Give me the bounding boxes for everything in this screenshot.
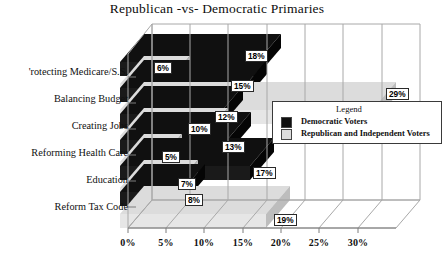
left-wall (128, 24, 152, 228)
category-label-5: Reform Tax Code (0, 201, 128, 212)
legend-swatch-democratic (281, 117, 292, 128)
value-label-democratic-3: 13% (222, 141, 245, 153)
legend-title: Legend (273, 104, 425, 114)
category-label-4: Education (0, 174, 128, 185)
legend-label-democratic: Democratic Voters (301, 117, 367, 127)
legend-label-republican: Republican and Independent Voters (301, 129, 430, 139)
value-label-republican-4: 7% (178, 178, 196, 190)
value-label-republican-5: 19% (274, 214, 297, 226)
legend-swatch-republican (281, 129, 292, 140)
value-label-democratic-0: 18% (245, 50, 268, 62)
category-label-3: Reforming Health Care (0, 147, 128, 158)
x-axis (128, 228, 396, 233)
category-label-2: Creating Jobs (0, 120, 128, 131)
legend: Legend Democratic Voters Republican and … (272, 101, 442, 144)
x-tick-label-4: 20% (264, 237, 298, 248)
category-label-0: 'rotecting Medicare/S.S. (0, 66, 128, 77)
y-axis-ticks (128, 77, 136, 207)
value-label-republican-2: 10% (188, 123, 211, 135)
value-label-democratic-4: 17% (253, 167, 276, 179)
value-label-democratic-1: 15% (231, 80, 254, 92)
value-label-republican-3: 5% (162, 151, 180, 163)
x-tick-label-3: 15% (226, 237, 260, 248)
x-tick-label-0: 0% (111, 237, 145, 248)
category-label-1: Balancing Budget (0, 93, 128, 104)
value-label-republican-1: 29% (386, 88, 409, 100)
x-tick-label-5: 25% (302, 237, 336, 248)
category-axis-labels: 'rotecting Medicare/S.S. Balancing Budge… (0, 0, 128, 264)
value-label-republican-0: 6% (154, 62, 172, 74)
x-tick-label-6: 30% (341, 237, 375, 248)
value-label-democratic-5: 8% (185, 194, 203, 206)
value-label-democratic-2: 12% (215, 111, 238, 123)
x-tick-label-1: 5% (149, 237, 183, 248)
x-tick-label-2: 10% (187, 237, 221, 248)
